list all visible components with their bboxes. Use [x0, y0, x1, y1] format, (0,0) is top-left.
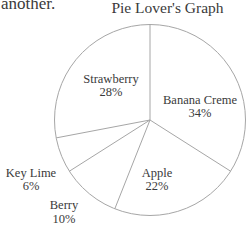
slice-percent-berry: 10%	[19, 213, 109, 227]
slice-name-berry: Berry	[19, 199, 109, 213]
slice-name-banana-creme: Banana Creme	[155, 94, 245, 107]
slice-boundary-berry	[115, 120, 150, 209]
slice-percent-strawberry: 28%	[66, 86, 156, 99]
slice-percent-key-lime: 6%	[0, 180, 75, 193]
slice-boundary-apple	[150, 120, 231, 171]
slice-label-berry: Berry 10%	[19, 199, 109, 226]
slice-label-strawberry: Strawberry 28%	[66, 73, 156, 98]
slice-name-strawberry: Strawberry	[66, 73, 156, 86]
slice-label-banana-creme: Banana Creme 34%	[155, 94, 245, 119]
slice-percent-banana-creme: 34%	[155, 107, 245, 120]
slice-percent-apple: 22%	[112, 180, 202, 193]
slice-name-apple: Apple	[112, 167, 202, 180]
slice-label-key-lime: Key Lime 6%	[0, 167, 75, 192]
slice-label-apple: Apple 22%	[112, 167, 202, 192]
slice-name-key-lime: Key Lime	[0, 167, 75, 180]
scanned-pie-chart-figure: another. Pie Lover's Graph Strawberry 28…	[0, 0, 250, 232]
